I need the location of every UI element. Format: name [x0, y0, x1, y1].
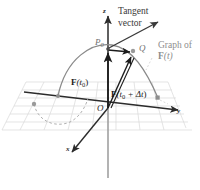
tangent-vector-label-line2: vector [118, 18, 142, 28]
curve-right-foot-marker [156, 96, 160, 100]
z-axis-label: z [103, 8, 106, 16]
point-q-label: Q [139, 44, 146, 54]
point-p0-marker [106, 47, 110, 51]
tangent-vector-label-line1: Tangent [118, 6, 148, 16]
point-p0-subscript: 0 [101, 41, 104, 48]
point-q-marker [131, 49, 135, 53]
graph-of-label-line1: Graph of [158, 40, 192, 50]
figure-canvas [0, 0, 200, 190]
vector-f-t0-plus-dt-a [108, 57, 131, 108]
vector-f-t0-arg-close: ) [85, 77, 88, 87]
vector-f-t0-label: F(t0) [71, 78, 88, 88]
right-foot-leader [160, 100, 168, 104]
projection-point-marker [32, 102, 36, 106]
vector-f-t0-plus-dt-b [111, 58, 134, 108]
vector-f-t0-plus-dt-label: F(t0 + Δt) [111, 90, 147, 100]
graph-of-label-line2: F(t) [158, 51, 173, 61]
vector-f-tdt-arg-mid: + Δt [125, 89, 143, 99]
origin-label: O [97, 104, 104, 114]
vector-f-tdt-arg-close: ) [144, 89, 147, 99]
curve-left-foot-marker [56, 94, 60, 98]
graph-label-leader [146, 58, 152, 70]
x-axis-label: x [66, 146, 70, 154]
point-p0-label: P0 [95, 38, 104, 48]
y-axis-label: y [177, 108, 180, 116]
secant-difference-vector [108, 50, 130, 52]
graph-of-label-arg: (t) [164, 51, 173, 61]
vector-function-graph-figure: Tangent vector Graph of F(t) P0 Q O F(t0… [0, 0, 200, 190]
projected-curve-dashed [34, 98, 88, 124]
